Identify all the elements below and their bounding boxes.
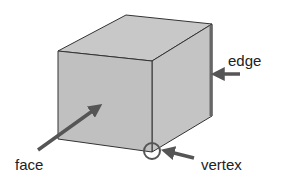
vertex-arrow-icon — [166, 151, 194, 158]
face-label: face — [15, 156, 43, 173]
vertex-label: vertex — [201, 156, 242, 173]
cube-diagram: edge face vertex — [0, 0, 283, 184]
edge-label: edge — [228, 52, 261, 69]
cube-figure: edge face vertex — [0, 0, 283, 184]
cube-front-face — [58, 51, 152, 152]
